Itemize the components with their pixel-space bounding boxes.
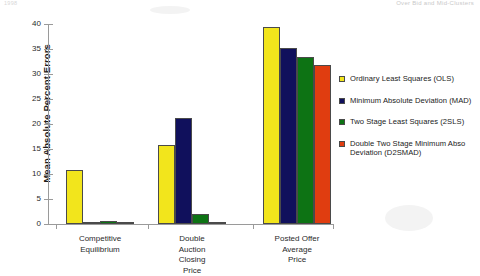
y-tick <box>44 124 53 125</box>
bar-mad <box>175 118 192 225</box>
bar-ols <box>158 145 175 224</box>
x-tick <box>253 224 254 229</box>
bar-group <box>158 24 226 224</box>
x-category-label-line: Double <box>142 234 242 245</box>
bar-2sls <box>100 221 117 224</box>
y-tick-label: 25 <box>11 94 41 103</box>
x-category-label-line: Equilibrium <box>50 245 150 256</box>
page-header: 1998 Over Bid and Mid-Clusters <box>0 0 480 9</box>
bar-d2smad <box>314 65 331 224</box>
bar-2sls <box>192 214 209 225</box>
y-tick <box>44 199 53 200</box>
y-tick-label: 10 <box>11 169 41 178</box>
y-tick-label: 20 <box>11 119 41 128</box>
legend-label: Two Stage Least Squares (2SLS) <box>350 117 479 127</box>
x-category-label: Posted OfferAveragePrice <box>247 234 347 266</box>
bar-group <box>66 24 134 224</box>
x-category-label-line: Closing <box>142 255 242 266</box>
x-category-label: CompetitiveEquilibrium <box>50 234 150 255</box>
bar-d2smad <box>117 222 134 224</box>
y-tick-label: 0 <box>11 219 41 228</box>
bar-2sls <box>297 57 314 225</box>
legend-swatch-icon <box>339 98 345 104</box>
y-tick <box>44 99 53 100</box>
x-tick <box>56 224 57 229</box>
y-tick-label: 5 <box>11 194 41 203</box>
x-category-label-line: Competitive <box>50 234 150 245</box>
y-tick <box>44 24 53 25</box>
bar-mad <box>280 48 297 224</box>
x-category-label-line: Average <box>247 245 347 256</box>
y-tick-label: 35 <box>11 44 41 53</box>
y-tick <box>44 74 53 75</box>
x-axis-line <box>48 224 333 225</box>
legend-swatch-icon <box>339 119 345 125</box>
bar-chart: 1998 Over Bid and Mid-Clusters Mean Abso… <box>0 0 480 276</box>
scan-smudge <box>385 205 433 231</box>
legend-swatch-icon <box>339 141 345 147</box>
x-category-label-line: Auction <box>142 245 242 256</box>
bar-ols <box>263 27 280 224</box>
y-tick <box>44 149 53 150</box>
bar-mad <box>83 222 100 224</box>
chart-legend: Ordinary Least Squares (OLS)Minimum Abso… <box>339 74 479 170</box>
legend-swatch-icon <box>339 76 345 82</box>
scan-smudge <box>150 6 190 14</box>
legend-item-ols[interactable]: Ordinary Least Squares (OLS) <box>339 74 479 84</box>
y-tick-label: 30 <box>11 69 41 78</box>
bar-d2smad <box>209 222 226 224</box>
y-tick <box>44 224 53 225</box>
bar-ols <box>66 170 83 224</box>
y-tick-label: 15 <box>11 144 41 153</box>
legend-item-d2smad[interactable]: Double Two Stage Minimum AbsoDeviation (… <box>339 139 479 158</box>
legend-label-line2: Deviation (D2SMAD) <box>350 148 479 158</box>
x-tick <box>148 224 149 229</box>
legend-label: Minimum Absolute Deviation (MAD) <box>350 96 479 106</box>
header-left-text: 1998 <box>4 0 17 6</box>
legend-label: Double Two Stage Minimum AbsoDeviation (… <box>350 139 479 158</box>
legend-item-mad[interactable]: Minimum Absolute Deviation (MAD) <box>339 96 479 106</box>
x-category-label: DoubleAuctionClosingPrice <box>142 234 242 276</box>
y-tick <box>44 174 53 175</box>
x-category-label-line: Price <box>142 266 242 276</box>
legend-label: Ordinary Least Squares (OLS) <box>350 74 479 84</box>
x-tick <box>333 224 334 229</box>
bar-group <box>263 24 331 224</box>
y-tick-label: 40 <box>11 19 41 28</box>
y-tick <box>44 49 53 50</box>
legend-item-2sls[interactable]: Two Stage Least Squares (2SLS) <box>339 117 479 127</box>
x-category-label-line: Price <box>247 255 347 266</box>
x-category-label-line: Posted Offer <box>247 234 347 245</box>
plot-area: 0510152025303540 <box>48 18 333 230</box>
header-right-text: Over Bid and Mid-Clusters <box>396 0 474 6</box>
